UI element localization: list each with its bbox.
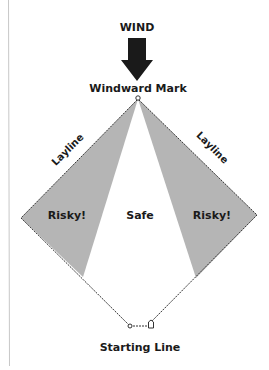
- wind-arrow-icon: [121, 38, 153, 81]
- risky-right-label: Risky!: [193, 209, 231, 222]
- windward-mark-label: Windward Mark: [89, 82, 187, 95]
- risky-zone-right: [138, 99, 257, 278]
- risky-left-label: Risky!: [48, 209, 86, 222]
- risky-zone-left: [21, 99, 138, 277]
- margin-rule: [9, 0, 10, 366]
- safe-label: Safe: [126, 209, 154, 222]
- pin-end-buoy-icon: [128, 324, 132, 328]
- wind-label: WIND: [120, 21, 155, 34]
- windward-mark-buoy-icon: [136, 96, 140, 100]
- starting-line-label: Starting Line: [100, 341, 181, 354]
- committee-boat-icon: [149, 320, 154, 328]
- sailing-strategy-diagram: WIND Windward Mark Layline Layline Risky…: [0, 0, 269, 370]
